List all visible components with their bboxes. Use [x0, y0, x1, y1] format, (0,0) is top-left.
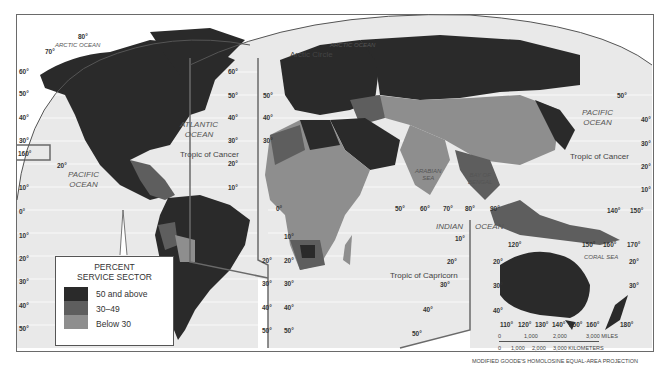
lat-label: 50°	[19, 90, 29, 97]
label-arctic-circle: Arctic Circle	[290, 50, 333, 59]
scale-miles-3000: 3,000 MILES	[586, 333, 618, 339]
inset-lon-label: 160°	[586, 321, 599, 328]
lon-label: 80°	[465, 205, 475, 212]
lat-label: 40°	[228, 114, 238, 121]
label-indian-ocean-1: INDIAN	[436, 222, 463, 232]
lon-label: 90°	[490, 205, 500, 212]
lat-label: 20°	[19, 255, 29, 262]
legend-item-mid: 30–49	[96, 304, 120, 314]
inset-lon-label: 120°	[508, 241, 521, 248]
lat-label: 30°	[641, 140, 651, 147]
inset-lat-label: 30°	[493, 282, 503, 289]
label-atlantic-ocean: ATLANTICOCEAN	[180, 120, 218, 140]
inset-lon-label: 180°	[620, 321, 633, 328]
inset-lon-label: 130°	[535, 321, 548, 328]
projection-caption: MODIFIED GOODE'S HOMOLOSINE EQUAL-AREA P…	[472, 358, 638, 364]
scale-miles-2000: 2,000	[553, 333, 567, 339]
label-bay-of-bengal: BAY OFBENGAL	[468, 172, 492, 186]
lat-label: 20°	[447, 258, 457, 265]
lon-label: 150°	[630, 207, 643, 214]
legend-swatch-low	[64, 315, 88, 329]
lat-label: 10°	[455, 235, 465, 242]
lon-label: 60°	[420, 205, 430, 212]
label-tropic-of-cancer-left: Tropic of Cancer	[180, 150, 239, 159]
lat-label: 50°	[262, 327, 272, 334]
lat-label: 20°	[228, 160, 238, 167]
inset-lat-label: 20°	[629, 258, 639, 265]
label-pacific-ocean-right: PACIFICOCEAN	[582, 108, 613, 128]
lat-label: 50°	[19, 325, 29, 332]
legend-swatch-mid	[64, 301, 88, 315]
lat-label: 50°	[412, 330, 422, 337]
lat-label: 30°	[440, 281, 450, 288]
scale-bar-line	[499, 341, 599, 342]
lat-label: 10°	[284, 233, 294, 240]
legend-swatch-high	[64, 287, 88, 301]
lat-label: 0°	[276, 205, 282, 212]
inset-lon-label: 140°	[552, 321, 565, 328]
label-arctic-ocean-right: ARCTIC OCEAN	[330, 42, 375, 49]
legend-item-low: Below 30	[96, 319, 131, 329]
scale-km-1000: 1,000	[511, 345, 525, 351]
lat-label: 60°	[228, 68, 238, 75]
lat-label: 50°	[284, 327, 294, 334]
inset-lon-label: 150°	[582, 241, 595, 248]
lat-label: 20°	[57, 162, 67, 169]
inset-lon-label: 120°	[518, 321, 531, 328]
label-tropic-of-cancer-right: Tropic of Cancer	[570, 152, 629, 161]
lat-label: 30°	[284, 280, 294, 287]
legend: PERCENTSERVICE SECTOR 50 and above 30–49…	[55, 256, 174, 346]
lat-label: 40°	[284, 304, 294, 311]
label-arabian-sea: ARABIANSEA	[415, 168, 441, 182]
lat-label: 10°	[641, 186, 651, 193]
scale-km-0: 0	[498, 345, 501, 351]
legend-title: PERCENTSERVICE SECTOR	[56, 262, 173, 282]
lat-label: 50°	[263, 92, 273, 99]
lon-label: 160°	[18, 150, 31, 157]
inset-lon-label: 160°	[603, 241, 616, 248]
lat-label: 40°	[19, 114, 29, 121]
scale-km-2000: 2,000	[532, 345, 546, 351]
legend-item-high: 50 and above	[96, 289, 148, 299]
lat-label: 20°	[284, 257, 294, 264]
scale-miles-1000: 1,000	[524, 333, 538, 339]
inset-lon-label: 110°	[500, 321, 513, 328]
label-indian-ocean-2: OCEAN	[475, 222, 503, 232]
inset-lat-label: 20°	[493, 258, 503, 265]
scale-miles-0: 0	[498, 333, 501, 339]
lat-label: 10°	[19, 184, 29, 191]
lat-label: 50°	[228, 92, 238, 99]
lat-label: 30°	[19, 278, 29, 285]
lat-label: 30°	[228, 137, 238, 144]
lat-label: 60°	[19, 68, 29, 75]
lat-label: 30°	[263, 137, 273, 144]
lat-label: 30°	[19, 137, 29, 144]
label-coral-sea: CORAL SEA	[584, 254, 618, 261]
label-tropic-of-capricorn: Tropic of Capricorn	[390, 271, 458, 280]
label-pacific-ocean-left: PACIFICOCEAN	[68, 170, 99, 190]
lat-label: 30°	[262, 280, 272, 287]
lon-label: 50°	[395, 205, 405, 212]
lat-label: 20°	[641, 163, 651, 170]
inset-lat-label: 30°	[629, 282, 639, 289]
inset-lon-label: 150°	[569, 321, 582, 328]
lat-label: 0°	[19, 208, 25, 215]
lat-label: 20°	[262, 257, 272, 264]
lat-label: 40°	[263, 114, 273, 121]
inset-lon-label: 170°	[627, 241, 640, 248]
scale-km-3000: 3,000 KILOMETERS	[553, 345, 604, 351]
lat-label: 40°	[262, 304, 272, 311]
inset-lat-label: 40°	[493, 307, 503, 314]
lon-label: 80°	[78, 33, 88, 40]
lat-label: 40°	[19, 302, 29, 309]
lat-label: 10°	[19, 232, 29, 239]
lat-label: 40°	[423, 306, 433, 313]
lat-label: 50°	[617, 92, 627, 99]
lon-label: 70°	[443, 205, 453, 212]
lon-label: 70°	[45, 48, 55, 55]
lat-label: 10°	[228, 184, 238, 191]
lat-label: 40°	[641, 116, 651, 123]
label-arctic-ocean-left: ARCTIC OCEAN	[55, 42, 100, 49]
lon-label: 140°	[607, 207, 620, 214]
